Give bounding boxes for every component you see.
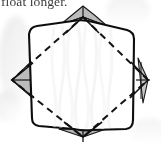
scan-shadow-bottomright — [132, 118, 161, 146]
paper-sheet — [29, 20, 134, 133]
scan-shadow-topright — [106, 0, 150, 26]
paper-outline — [29, 20, 134, 130]
figure-page: float longer. — [0, 0, 161, 152]
folded-paper-diagram — [0, 0, 161, 152]
